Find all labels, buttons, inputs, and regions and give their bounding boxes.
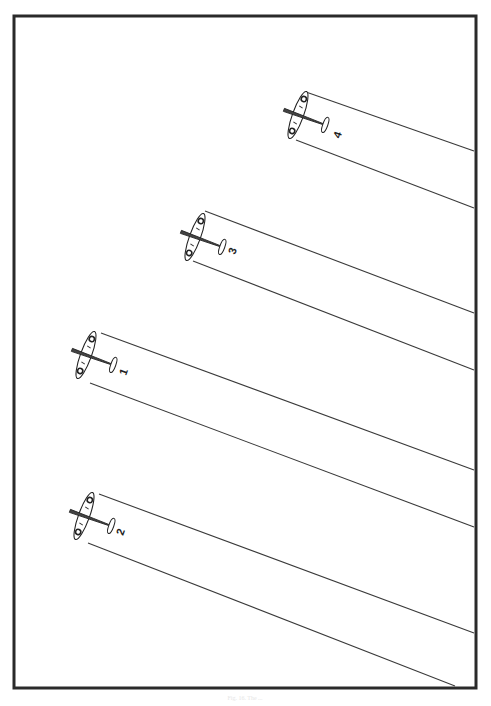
spitfire-icon [63, 326, 124, 389]
aircraft-4: 4 [275, 86, 474, 208]
aircraft-3: 3 [172, 208, 474, 370]
beam-line-top [205, 211, 474, 313]
aircraft-1: 1 [63, 326, 474, 527]
figure-caption: Fig. 16. The ... [227, 695, 263, 701]
aircraft-2: 2 [61, 487, 474, 686]
aircraft-label: 2 [114, 527, 127, 537]
aircraft-label: 3 [226, 246, 239, 256]
beam-line-bottom [193, 261, 474, 370]
spitfire-icon [61, 487, 122, 550]
beam-line-top [101, 333, 474, 470]
spitfire-icon [275, 86, 336, 149]
beam-line-bottom [88, 543, 455, 686]
aircraft-group: 4312 [61, 86, 474, 686]
diagram-canvas: 4312 Fig. 16. The ... [0, 0, 491, 706]
beam-line-top [99, 494, 474, 633]
beam-line-top [306, 92, 474, 151]
beam-line-bottom [90, 383, 474, 527]
beam-line-bottom [296, 140, 474, 208]
aircraft-label: 1 [117, 367, 130, 377]
aircraft-label: 4 [331, 129, 345, 140]
